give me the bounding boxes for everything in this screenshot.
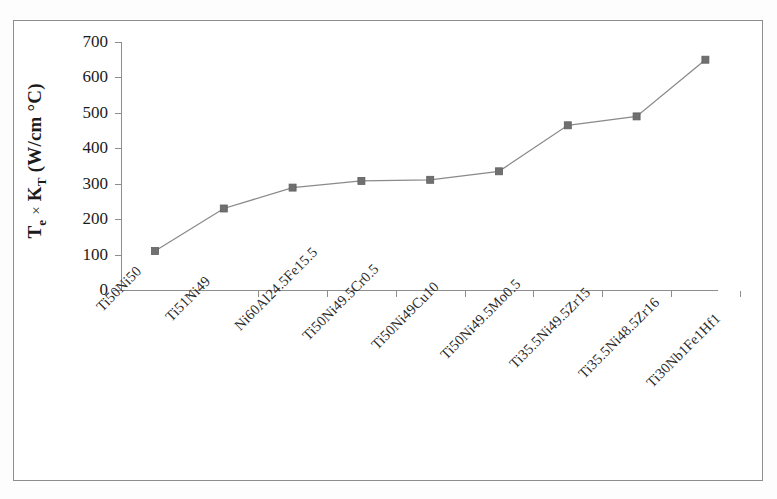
data-point-marker — [702, 56, 709, 63]
figure-container: Te × KT (W/cm °C) 7006005004003002001000… — [0, 0, 777, 499]
data-point-marker — [152, 248, 159, 255]
data-point-marker — [633, 113, 640, 120]
data-point-marker — [564, 122, 571, 129]
series-line — [155, 60, 705, 251]
data-point-marker — [289, 184, 296, 191]
data-point-marker — [220, 205, 227, 212]
series-markers — [152, 56, 709, 254]
plot-area — [0, 0, 777, 499]
data-point-marker — [427, 176, 434, 183]
data-point-marker — [358, 177, 365, 184]
data-point-marker — [496, 168, 503, 175]
